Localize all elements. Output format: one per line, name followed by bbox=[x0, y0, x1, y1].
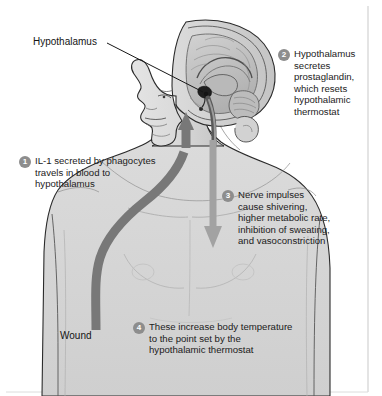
step-text-2: Hypothalamus secretes prostaglandin, whi… bbox=[294, 48, 355, 118]
step-text-4: These increase body temperature to the p… bbox=[149, 321, 292, 356]
step-text-3: Nerve impulses cause shivering, higher m… bbox=[238, 189, 330, 247]
step-badge-1: 1 bbox=[19, 156, 31, 168]
callout-step-4: 4 These increase body temperature to the… bbox=[133, 321, 333, 356]
callout-step-2: 2 Hypothalamus secretes prostaglandin, w… bbox=[278, 48, 378, 118]
label-hypothalamus: Hypothalamus bbox=[33, 36, 97, 47]
step-text-1: IL-1 secreted by phagocytes travels in b… bbox=[35, 155, 156, 190]
step-badge-4: 4 bbox=[133, 322, 145, 334]
callout-step-3: 3 Nerve impulses cause shivering, higher… bbox=[222, 189, 380, 247]
fever-pathway-figure: Hypothalamus Wound 1 IL-1 secreted by ph… bbox=[0, 0, 382, 396]
step-badge-3: 3 bbox=[222, 190, 234, 202]
callout-step-1: 1 IL-1 secreted by phagocytes travels in… bbox=[19, 155, 194, 190]
step-badge-2: 2 bbox=[278, 49, 290, 61]
label-wound: Wound bbox=[60, 330, 92, 341]
